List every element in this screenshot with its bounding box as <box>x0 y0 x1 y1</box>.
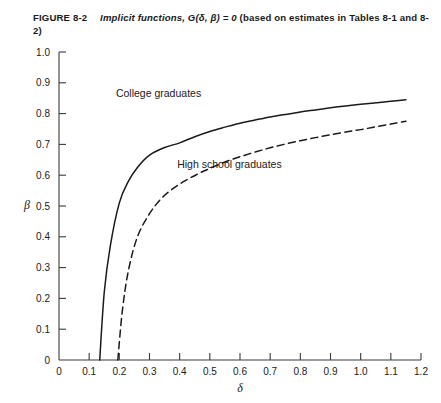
y-tick-label: 1.0 <box>36 47 50 58</box>
y-tick-label: 0.6 <box>36 170 50 181</box>
x-tick-label: 0 <box>56 366 62 377</box>
series-curve-college-graduates <box>100 100 406 360</box>
y-tick-label: 0 <box>44 355 50 366</box>
x-tick-label: 0.7 <box>263 366 277 377</box>
x-tick-label: 0.8 <box>293 366 307 377</box>
y-tick-label: 0.5 <box>36 201 50 212</box>
x-tick-label: 1.2 <box>414 366 428 377</box>
y-tick-label: 0.8 <box>36 108 50 119</box>
y-axis-ticks: 00.10.20.30.40.50.60.70.80.91.0 <box>36 47 66 366</box>
chart-canvas: 00.10.20.30.40.50.60.70.80.91.0 00.10.20… <box>0 0 441 403</box>
x-tick-label: 0.3 <box>143 366 157 377</box>
y-tick-label: 0.4 <box>36 231 50 242</box>
implicit-functions-chart: 00.10.20.30.40.50.60.70.80.91.0 00.10.20… <box>0 0 441 403</box>
y-tick-label: 0.3 <box>36 262 50 273</box>
series-label-high-school-graduates: High school graduates <box>177 158 281 170</box>
y-axis-title: β <box>23 198 30 212</box>
series-label-college-graduates: College graduates <box>116 87 201 99</box>
x-axis-title: δ <box>237 381 243 395</box>
x-tick-label: 1.1 <box>384 366 398 377</box>
x-axis-ticks: 00.10.20.30.40.50.60.70.80.91.01.11.2 <box>56 353 428 377</box>
data-series-group <box>100 100 406 360</box>
x-tick-label: 0.2 <box>112 366 126 377</box>
y-tick-label: 0.7 <box>36 139 50 150</box>
x-tick-label: 0.1 <box>82 366 96 377</box>
series-annotations-group: College graduatesHigh school graduates <box>116 87 282 170</box>
x-tick-label: 0.6 <box>233 366 247 377</box>
x-tick-label: 0.4 <box>173 366 187 377</box>
y-tick-label: 0.1 <box>36 324 50 335</box>
x-tick-label: 0.5 <box>203 366 217 377</box>
y-tick-label: 0.2 <box>36 293 50 304</box>
axis-lines <box>59 52 421 360</box>
x-tick-label: 0.9 <box>324 366 338 377</box>
y-tick-label: 0.9 <box>36 77 50 88</box>
x-tick-label: 1.0 <box>354 366 368 377</box>
